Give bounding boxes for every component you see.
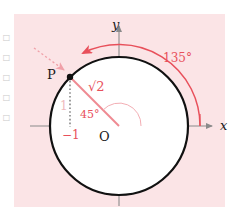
y-axis-label: y (112, 18, 119, 31)
y-coordinate-label: 1 (60, 100, 68, 112)
figure-root: □ □ □ □ □ (0, 0, 242, 221)
angle-135-label: 135° (163, 52, 192, 64)
x-coordinate-label: −1 (62, 129, 80, 141)
x-axis-label: x (220, 119, 227, 132)
point-p-label: P (47, 68, 56, 81)
diagram-canvas (0, 0, 242, 221)
point-p-marker (67, 74, 73, 80)
radius-length-label: √2 (88, 80, 105, 93)
angle-45-label: 45° (80, 109, 100, 120)
origin-label: O (99, 130, 110, 143)
